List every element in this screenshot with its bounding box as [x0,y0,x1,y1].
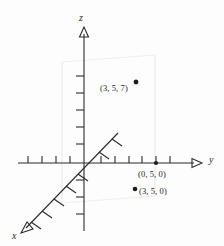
point-dot-357 [134,80,139,85]
y-axis-label: y [209,154,213,165]
point-label-050: (0, 5, 0) [138,169,166,179]
x-axis [26,133,122,229]
guide-box [62,55,155,203]
point-label-350: (3, 5, 0) [139,186,167,196]
z-axis-label: z [79,12,83,23]
point-dot-050 [154,161,158,165]
x-axis-label: x [12,230,16,241]
coordinate-system-figure: z y x (3, 5, 7) (0, 5, 0) (3, 5, 0) [0,0,224,246]
axes-canvas [0,0,224,246]
point-dot-350 [133,187,138,192]
point-label-357: (3, 5, 7) [100,83,128,93]
